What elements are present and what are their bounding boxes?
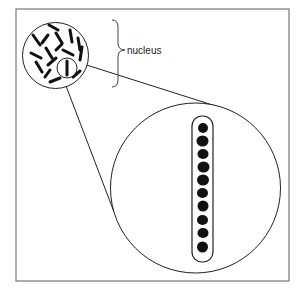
nucleus-label: nucleus (127, 45, 161, 56)
magnified-circle (111, 103, 281, 273)
diagram-canvas: nucleus (0, 0, 301, 290)
zoom-line-lower (63, 78, 114, 212)
highlight-circle (57, 58, 77, 78)
zoom-line-upper (74, 61, 222, 108)
nucleus (23, 23, 89, 89)
